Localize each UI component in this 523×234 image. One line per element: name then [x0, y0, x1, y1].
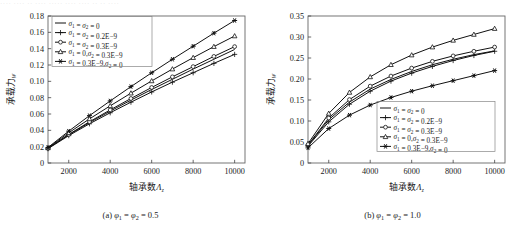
svg-text:0.05: 0.05 [290, 138, 304, 147]
caption-a-value: = 0.5 [139, 210, 159, 220]
svg-text:0: 0 [300, 159, 304, 168]
caption-b-value: = 1.0 [401, 210, 421, 220]
legend: σ1 = σ2 = 0σ1 = σ2 = 0.2E−9σ1 = σ2 = 0.3… [55, 20, 123, 70]
svg-text:0.10: 0.10 [290, 117, 304, 126]
svg-text:10000: 10000 [224, 167, 244, 176]
svg-text:0.08: 0.08 [30, 94, 44, 103]
chart-panel-a: 00.020.040.060.080.100.120.140.160.18200… [0, 12, 261, 234]
svg-text:0.14: 0.14 [30, 45, 44, 54]
svg-text:2000: 2000 [61, 167, 77, 176]
svg-text:σ1 = σ2 = 0: σ1 = σ2 = 0 [69, 20, 101, 32]
chart-panel-b: 00.050.100.150.200.250.300.3520004000600… [262, 12, 523, 234]
svg-text:2000: 2000 [321, 167, 337, 176]
svg-a-plot: 00.020.040.060.080.100.120.140.160.18200… [0, 12, 261, 212]
svg-text:6000: 6000 [403, 167, 419, 176]
caption-a-eq: = [122, 210, 131, 220]
svg-text:0.25: 0.25 [290, 54, 304, 63]
svg-text:0.35: 0.35 [290, 12, 304, 21]
svg-text:10000: 10000 [484, 167, 504, 176]
svg-text:8000: 8000 [185, 167, 201, 176]
svg-text:σ1 = σ2 = 0: σ1 = σ2 = 0 [394, 105, 426, 117]
svg-text:0.30: 0.30 [290, 33, 304, 42]
svg-text:4000: 4000 [102, 167, 118, 176]
svg-text:承载力W: 承载力W [265, 73, 277, 105]
chart-svg-a: 00.020.040.060.080.100.120.140.160.18200… [0, 12, 261, 216]
legend: σ1 = σ2 = 0σ1 = σ2 = 0.2E−9σ1 = σ2 = 0.3… [380, 105, 448, 155]
caption-b: (b) φ1 = φ2 = 1.0 [262, 210, 523, 220]
chart-svg-b: 00.050.100.150.200.250.300.3520004000600… [262, 12, 523, 216]
caption-b-sub2: 2 [398, 214, 401, 221]
caption-a-prefix: (a) [103, 210, 115, 220]
caption-b-eq: = [384, 210, 393, 220]
svg-text:0.15: 0.15 [290, 96, 304, 105]
page-top-text-fragment: ···· ···· ·· ···· ····· ···· ···· ·· ·· … [0, 0, 523, 12]
caption-a: (a) φ1 = φ2 = 0.5 [0, 210, 261, 220]
caption-a-sub1: 1 [119, 214, 122, 221]
caption-b-prefix: (b) [364, 210, 376, 220]
caption-b-sub1: 1 [381, 214, 384, 221]
svg-text:0.16: 0.16 [30, 28, 44, 37]
svg-b-plot: 00.050.100.150.200.250.300.3520004000600… [262, 12, 523, 212]
svg-text:0.12: 0.12 [30, 61, 44, 70]
svg-text:0.06: 0.06 [30, 110, 44, 119]
svg-text:轴承数Λz: 轴承数Λz [389, 181, 423, 193]
svg-text:8000: 8000 [445, 167, 461, 176]
svg-text:0.18: 0.18 [30, 12, 44, 21]
svg-text:轴承数Λz: 轴承数Λz [129, 181, 163, 193]
svg-text:6000: 6000 [143, 167, 159, 176]
caption-a-phi2: φ [131, 210, 136, 220]
svg-text:0.10: 0.10 [30, 77, 44, 86]
svg-text:承载力W: 承载力W [5, 73, 17, 105]
caption-a-sub2: 2 [136, 214, 139, 221]
svg-text:0: 0 [40, 159, 44, 168]
svg-text:0.02: 0.02 [30, 143, 44, 152]
svg-text:0.20: 0.20 [290, 75, 304, 84]
svg-text:4000: 4000 [362, 167, 378, 176]
figure-page: ···· ···· ·· ···· ····· ···· ···· ·· ·· … [0, 0, 523, 234]
series-plus [305, 49, 497, 149]
svg-text:0.04: 0.04 [30, 126, 44, 135]
